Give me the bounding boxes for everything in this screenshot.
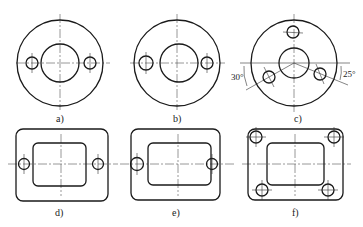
- panel-a: a): [16, 14, 110, 125]
- label-d: d): [55, 207, 63, 219]
- label-f: f): [292, 207, 299, 219]
- panel-d: d): [8, 129, 118, 219]
- panel-c: 30° 25° c): [231, 14, 356, 125]
- angle-label-25: 25°: [343, 69, 356, 79]
- label-c: c): [294, 113, 302, 125]
- panel-e: e): [120, 129, 235, 219]
- angle-label-30: 30°: [231, 72, 244, 82]
- label-e: e): [172, 207, 180, 219]
- label-a: a): [56, 113, 64, 125]
- panel-b: b): [130, 14, 225, 125]
- label-b: b): [173, 113, 181, 125]
- panel-f: f): [242, 127, 351, 219]
- flange-drawings: a) b) 30° 25° c): [0, 0, 363, 227]
